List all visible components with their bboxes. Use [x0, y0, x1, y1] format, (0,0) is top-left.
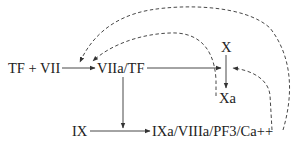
feedback-tenase-to-x: [233, 68, 272, 130]
node-xa: Xa: [219, 91, 236, 106]
node-x: X: [221, 40, 231, 55]
node-viia-tf: VIIa/TF: [97, 61, 145, 76]
node-tenase-complex: IXa/VIIIa/PF3/Ca++: [152, 124, 273, 139]
node-tf-vii: TF + VII: [8, 61, 60, 76]
node-ix: IX: [72, 124, 87, 139]
